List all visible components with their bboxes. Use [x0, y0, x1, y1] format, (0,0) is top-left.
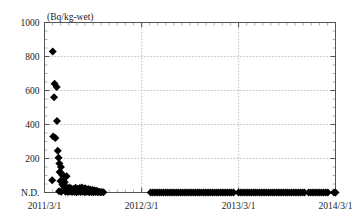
minor-tick-layer	[45, 23, 336, 193]
x-axis-tick-labels: 2011/3/12012/3/12013/3/12014/3/1	[28, 201, 353, 211]
y-tick-label: 400	[25, 120, 40, 130]
data-point-marker	[50, 93, 58, 101]
chart-page: N.D.2004006008001000 2011/3/12012/3/1201…	[0, 0, 358, 222]
y-tick-label: N.D.	[21, 188, 39, 198]
y-tick-label: 600	[25, 86, 40, 96]
data-point-marker	[54, 147, 62, 155]
major-tick-layer	[45, 23, 336, 193]
x-tick-label: 2013/3/1	[222, 201, 256, 211]
grid-layer	[45, 23, 336, 193]
scatter-chart: N.D.2004006008001000 2011/3/12012/3/1201…	[0, 0, 358, 222]
data-point-marker	[332, 189, 340, 197]
y-tick-label: 200	[25, 154, 40, 164]
x-tick-label: 2014/3/1	[319, 201, 353, 211]
y-tick-label: 800	[25, 52, 40, 62]
x-tick-label: 2012/3/1	[125, 201, 159, 211]
y-tick-label: 1000	[21, 18, 40, 28]
data-point-marker	[49, 47, 57, 55]
plot-frame-rect	[45, 23, 336, 193]
data-points-layer	[48, 47, 339, 196]
y-axis-tick-labels: N.D.2004006008001000	[21, 18, 40, 198]
plot-frame	[45, 23, 336, 193]
x-tick-label: 2011/3/1	[28, 201, 62, 211]
data-point-marker	[53, 117, 61, 125]
y-axis-unit-label: (Bq/kg-wet)	[47, 12, 93, 23]
data-point-marker	[48, 176, 56, 184]
